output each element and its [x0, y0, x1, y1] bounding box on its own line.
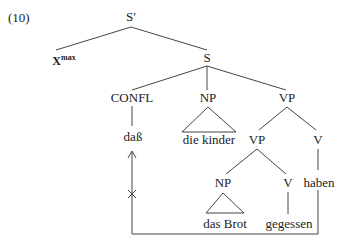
node-s: S [203, 51, 210, 65]
node-v-aux: V [313, 133, 322, 147]
node-vp-upper: VP [279, 91, 296, 105]
branch-vp-v-main [257, 149, 286, 174]
node-confl: CONFL [111, 91, 154, 105]
node-x-max: Xmax [52, 51, 75, 68]
node-x-max-base: X [52, 54, 61, 68]
branch-vp-np [226, 149, 257, 174]
node-np-subject: NP [200, 91, 217, 105]
tree-branches [0, 0, 350, 247]
branch-s-confl [132, 66, 207, 90]
leaf-dass: daß [124, 130, 143, 144]
leaf-das-brot: das Brot [203, 217, 247, 231]
np-triangle-das-brot [206, 193, 244, 213]
branch-vp-vp [259, 107, 287, 130]
node-v-main: V [283, 176, 292, 190]
branch-s-vp [207, 66, 286, 90]
np-triangle-die-kinder [182, 107, 236, 132]
example-number: (10) [8, 11, 30, 25]
node-x-max-superscript: max [61, 53, 76, 62]
node-np-object: NP [215, 176, 232, 190]
leaf-haben: haben [303, 176, 334, 190]
leaf-die-kinder: die kinder [183, 133, 235, 147]
syntax-tree-diagram: (10) S′ Xmax S CONFL NP VP daß die kinde… [0, 0, 350, 247]
node-s-bar: S′ [126, 10, 136, 24]
node-vp-lower: VP [249, 133, 266, 147]
leaf-gegessen: gegessen [266, 217, 313, 231]
branch-sbar-s [131, 27, 207, 50]
branch-sbar-xmax [56, 27, 131, 50]
branch-vp-v [287, 107, 316, 130]
